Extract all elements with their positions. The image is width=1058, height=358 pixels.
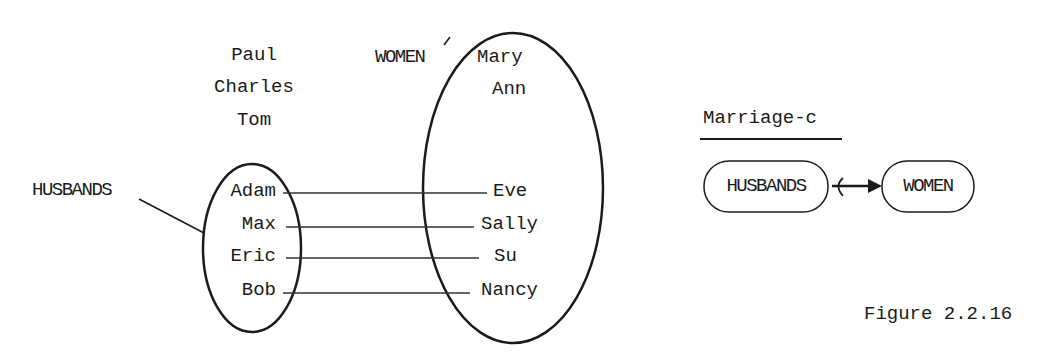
husband-label: Adam (200, 182, 276, 201)
figure-caption: Figure 2.2.16 (864, 305, 1012, 324)
husbands-pointer-line (139, 199, 204, 233)
unmarried-woman-label: Mary (477, 48, 523, 67)
unmarried-woman-label: Ann (492, 80, 526, 99)
husband-label: Bob (200, 281, 276, 300)
women-set-label: WOMEN (375, 48, 425, 67)
wife-label: Sally (481, 215, 538, 234)
schema-women-label: WOMEN (882, 177, 974, 196)
unmarried-man-label: Paul (214, 46, 294, 65)
husband-label: Max (200, 215, 276, 234)
schema-husbands-label: HUSBANDS (704, 177, 828, 196)
unmarried-man-label: Charles (204, 78, 304, 97)
one-to-one-arrow-icon (832, 178, 882, 196)
wife-label: Eve (493, 182, 527, 201)
husbands-set-label: HUSBANDS (32, 181, 111, 200)
wife-label: Nancy (481, 281, 538, 300)
unmarried-man-label: Tom (214, 111, 294, 130)
women-pointer-line (444, 37, 450, 45)
husband-label: Eric (200, 247, 276, 266)
wife-label: Su (494, 247, 517, 266)
schema-title: Marriage-c (703, 109, 817, 128)
